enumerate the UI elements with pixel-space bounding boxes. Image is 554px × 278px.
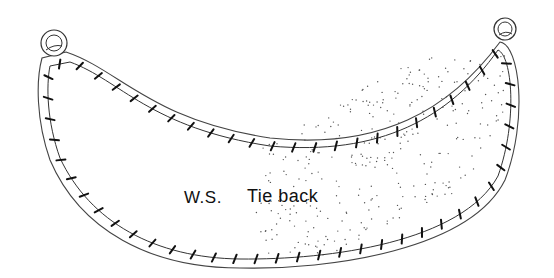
ring-icon — [41, 30, 67, 56]
tie-back-label: Tie back — [247, 186, 318, 207]
cross-stitch-marks — [44, 50, 515, 263]
wrong-side-label: W.S. — [184, 188, 222, 208]
tie-back-diagram — [0, 0, 554, 278]
outer-outline — [38, 42, 519, 268]
ring-icon — [494, 18, 516, 40]
